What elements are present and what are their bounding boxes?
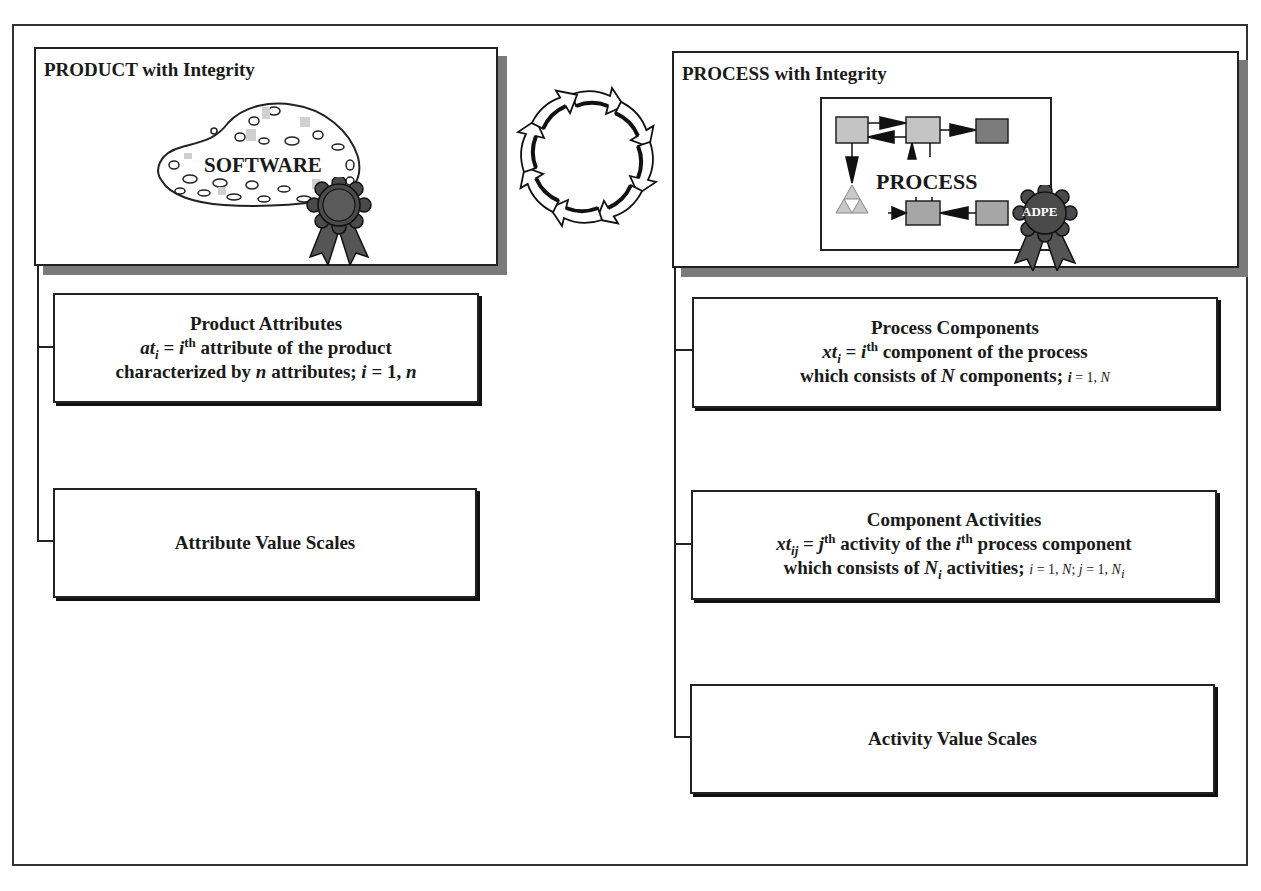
- product-attributes-box: Product Attributes ati = ith attribute o…: [53, 293, 479, 403]
- process-panel: PROCESS with Integrity PROCESS: [672, 51, 1239, 268]
- activity-value-scales-box: Activity Value Scales: [690, 684, 1215, 794]
- product-attributes-range: characterized by n attributes; i = 1, n: [115, 360, 416, 384]
- software-label: SOFTWARE: [204, 153, 322, 178]
- process-components-range: which consists of N components; i = 1, N: [800, 364, 1110, 390]
- attribute-value-scales-heading: Attribute Value Scales: [175, 531, 356, 555]
- component-activities-range: which consists of Ni activities; i = 1, …: [783, 556, 1124, 582]
- product-attributes-heading: Product Attributes: [190, 312, 342, 336]
- adpe-label: ADPE: [1022, 204, 1057, 220]
- product-connector-vertical: [37, 266, 39, 542]
- process-connector-branch-1: [674, 349, 693, 351]
- process-connector-vertical: [674, 268, 676, 738]
- process-panel-title: PROCESS with Integrity: [682, 63, 887, 85]
- product-panel: PRODUCT with Integrity SOFTWARE: [34, 47, 498, 266]
- process-components-heading: Process Components: [871, 316, 1039, 340]
- component-activities-heading: Component Activities: [867, 508, 1042, 532]
- process-components-box: Process Components xti = ith component o…: [692, 297, 1218, 408]
- process-label: PROCESS: [876, 169, 977, 195]
- award-ribbon-icon: [304, 177, 374, 265]
- activity-value-scales-heading: Activity Value Scales: [868, 727, 1037, 751]
- component-activities-definition: xtij = jth activity of the ith process c…: [776, 532, 1131, 556]
- product-attributes-definition: ati = ith attribute of the product: [140, 336, 392, 360]
- component-activities-box: Component Activities xtij = jth activity…: [691, 490, 1217, 600]
- product-panel-title: PRODUCT with Integrity: [44, 59, 255, 81]
- circular-arrows-cycle-icon: [512, 82, 662, 232]
- process-components-definition: xti = ith component of the process: [822, 340, 1087, 364]
- process-connector-branch-3: [674, 736, 691, 738]
- award-ribbon-icon: [1009, 185, 1081, 271]
- attribute-value-scales-box: Attribute Value Scales: [53, 488, 477, 598]
